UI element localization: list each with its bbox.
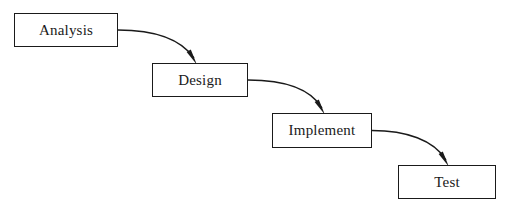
node-implement-label: Implement [289,123,356,138]
node-test-label: Test [434,175,460,190]
edge-line-design-to-implement [248,80,322,108]
node-analysis-label: Analysis [39,23,93,38]
edge-implement-to-test [372,131,449,167]
edge-line-analysis-to-design [118,30,194,58]
node-test[interactable]: Test [398,165,496,199]
waterfall-diagram: Analysis Design Implement Test [0,0,515,214]
node-analysis[interactable]: Analysis [14,13,118,47]
node-design-label: Design [178,73,222,88]
node-implement[interactable]: Implement [272,113,372,148]
edge-analysis-to-design [118,30,197,64]
node-design[interactable]: Design [152,63,248,97]
edge-design-to-implement [248,80,325,114]
edge-line-implement-to-test [372,131,446,161]
